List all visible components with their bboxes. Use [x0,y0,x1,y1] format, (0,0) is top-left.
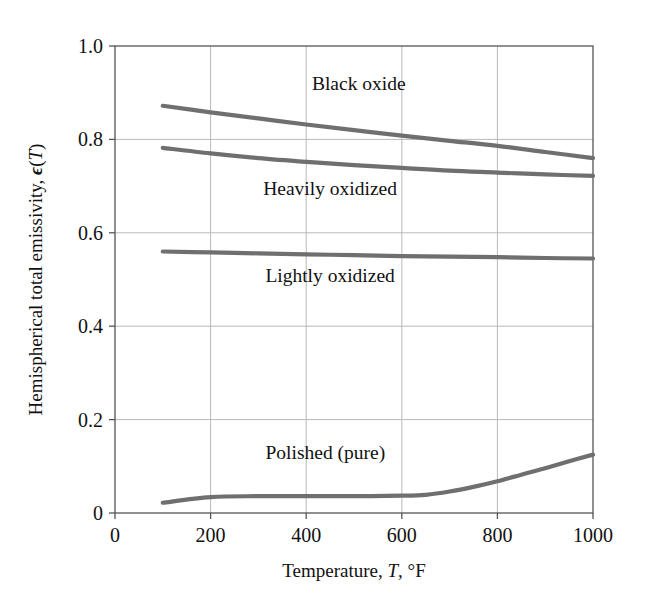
emissivity-line-chart: Black oxideHeavily oxidizedLightly oxidi… [0,0,649,606]
ytick-label: 0.6 [78,222,103,244]
xtick-label: 800 [482,524,512,546]
ytick-label: 0.2 [78,409,103,431]
x-axis-title: Temperature, T, °F [282,560,425,581]
ytick-label: 0 [93,502,103,524]
ytick-label: 0.4 [78,315,103,337]
xtick-label: 0 [110,524,120,546]
emissivity-figure: Black oxideHeavily oxidizedLightly oxidi… [0,0,649,606]
xtick-label: 600 [387,524,417,546]
ytick-label: 0.8 [78,128,103,150]
series-label-heavily-oxidized: Heavily oxidized [263,178,397,199]
series-label-lightly-oxidized: Lightly oxidized [265,265,395,286]
series-label-polished-pure: Polished (pure) [265,442,385,464]
xtick-label: 200 [196,524,226,546]
xtick-label: 1000 [573,524,613,546]
series-label-black-oxide: Black oxide [312,73,406,94]
y-axis-title: Hemispherical total emissivity, ϵ(T) [25,144,47,416]
ytick-label: 1.0 [78,35,103,57]
xtick-label: 400 [291,524,321,546]
